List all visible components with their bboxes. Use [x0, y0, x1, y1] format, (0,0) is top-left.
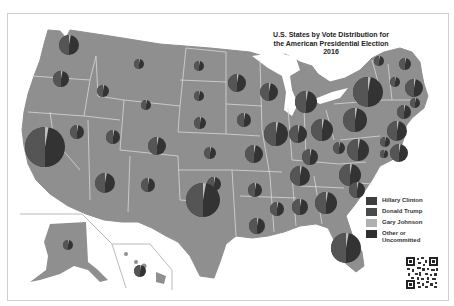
state-pie-ar: [248, 183, 262, 197]
state-pie-ks: [204, 147, 216, 159]
state-pie-nj: [387, 121, 407, 141]
legend-label: Other or Uncommitted: [382, 230, 420, 244]
legend-label: Gary Johnson: [382, 219, 422, 226]
state-pie-sd: [194, 91, 204, 101]
state-pie-ms: [270, 202, 284, 216]
state-pie-ca: [25, 127, 65, 167]
state-pie-md: [390, 144, 408, 162]
state-pie-id: [97, 85, 109, 97]
state-pie-me: [399, 58, 411, 70]
johnson-swatch: [366, 219, 377, 227]
title-line-3: 2016: [262, 48, 400, 57]
state-pie-wy: [141, 100, 151, 110]
state-pie-hi: [134, 265, 146, 277]
alaska-landmass: [30, 222, 108, 282]
state-pie-mi: [295, 91, 317, 113]
state-pie-ri: [410, 98, 420, 108]
state-pie-ny: [353, 77, 383, 107]
state-pie-ma: [405, 79, 423, 97]
state-pie-nh: [390, 77, 400, 87]
state-pie-sc: [349, 182, 365, 198]
legend-label-line-2: Uncommitted: [382, 237, 420, 243]
legend-label-line-1: Other or: [382, 230, 406, 236]
legend-item-trump: Donald Trump: [366, 208, 446, 219]
state-pie-al: [292, 199, 308, 215]
qr-code-icon[interactable]: [405, 256, 439, 290]
state-pie-tn: [290, 166, 310, 186]
legend-item-other: Other or Uncommitted: [366, 230, 446, 248]
state-pie-wv: [333, 142, 345, 154]
state-pie-ga: [315, 192, 337, 214]
legend: Hillary Clinton Donald Trump Gary Johnso…: [366, 197, 446, 248]
other-swatch: [366, 230, 377, 238]
state-pie-de: [380, 137, 390, 147]
state-pie-dc: [380, 150, 388, 158]
state-pie-la: [249, 218, 265, 234]
title-line-1: U.S. States by Vote Distribution for: [262, 31, 400, 40]
state-pie-wa: [59, 35, 79, 55]
state-pie-ne: [194, 117, 206, 129]
state-pie-or: [53, 71, 69, 87]
state-pie-ia: [237, 113, 251, 127]
clinton-swatch: [366, 197, 377, 205]
state-pie-mo: [245, 145, 263, 163]
state-pie-oh: [311, 119, 333, 141]
map-title: U.S. States by Vote Distribution for the…: [262, 31, 400, 57]
state-pie-in: [289, 125, 307, 143]
state-pie-pa: [343, 108, 367, 132]
state-pie-il: [264, 122, 288, 146]
legend-item-johnson: Gary Johnson: [366, 219, 446, 230]
legend-item-clinton: Hillary Clinton: [366, 197, 446, 208]
state-pie-nm: [141, 178, 155, 192]
state-pie-mn: [228, 74, 246, 92]
state-pie-ak: [63, 240, 73, 250]
trump-swatch: [366, 208, 377, 216]
legend-label: Hillary Clinton: [382, 197, 423, 204]
state-pie-mt: [134, 59, 144, 69]
state-pie-vt: [374, 56, 384, 66]
state-pie-va: [347, 139, 369, 161]
state-pie-ut: [106, 130, 120, 144]
state-pie-fl: [331, 233, 361, 263]
state-pie-az: [95, 173, 115, 193]
state-pie-nv: [70, 125, 84, 139]
state-pie-ky: [302, 149, 318, 165]
state-pie-wi: [260, 83, 278, 101]
state-pie-co: [148, 137, 166, 155]
legend-label: Donald Trump: [382, 208, 422, 215]
state-pie-nd: [194, 61, 204, 71]
state-pie-tx: [186, 183, 220, 217]
title-line-2: the American Presidential Election: [262, 40, 400, 49]
state-pie-ct: [397, 105, 411, 119]
